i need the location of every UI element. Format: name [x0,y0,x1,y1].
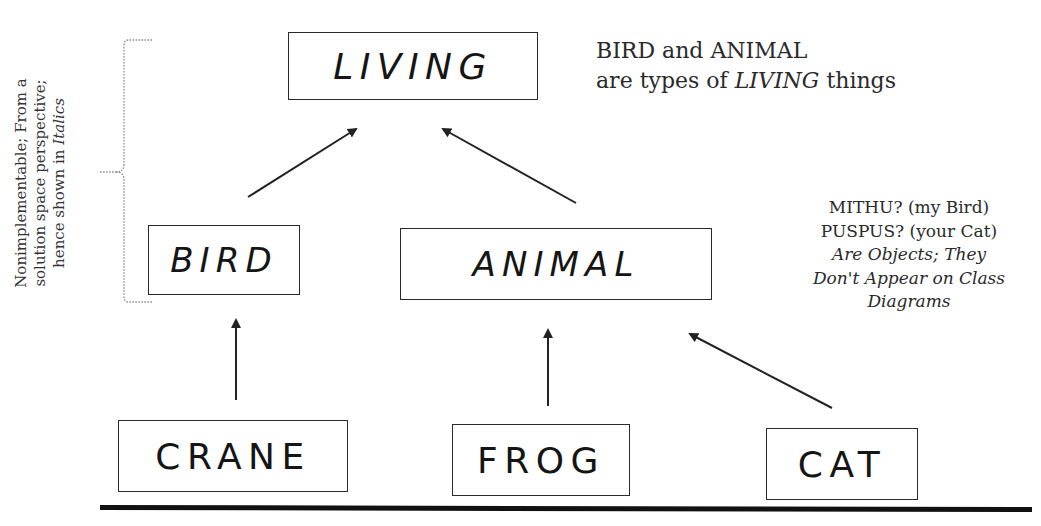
note-objects: MITHU? (my Bird) PUSPUS? (your Cat) Are … [784,196,1034,314]
class-cat: CAT [766,428,918,500]
class-crane: CRANE [118,420,348,492]
note-line: are types of LIVING things [596,66,896,96]
class-label: ANIMAL [473,244,640,284]
class-animal: ANIMAL [400,228,712,300]
note-nonimplementable: Nonimplementable; From a solution space … [12,13,92,353]
note-line: BIRD and ANIMAL [596,36,896,66]
note-line: Are Objects; They [784,243,1034,267]
arrow-bird-to-living [248,129,356,197]
arrow-animal-to-living [443,129,576,203]
class-bird: BIRD [148,225,300,295]
class-frog: FROG [452,424,630,496]
class-label: BIRD [170,240,278,280]
note-line: MITHU? (my Bird) [784,196,1034,220]
class-label: FROG [477,440,605,481]
arrow-cat-to-animal [690,334,832,408]
note-line: solution space perspective; [31,13,50,353]
note-line: hence shown in Italics [50,13,69,353]
note-types-of-living: BIRD and ANIMAL are types of LIVING thin… [596,36,896,96]
bottom-rule [100,505,1032,512]
note-line: Diagrams [784,290,1034,314]
class-living: LIVING [288,32,538,100]
class-label: LIVING [333,46,493,87]
dotted-brace [100,40,152,302]
class-label: CRANE [155,436,310,477]
note-line: Don't Appear on Class [784,267,1034,291]
note-line: PUSPUS? (your Cat) [784,220,1034,244]
note-line: Nonimplementable; From a [12,13,31,353]
class-label: CAT [798,444,886,485]
